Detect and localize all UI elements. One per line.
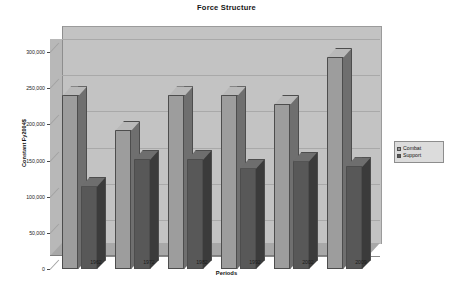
- bar-combat-2009[interactable]: [327, 57, 343, 269]
- bar-support-2009[interactable]: [346, 166, 362, 269]
- bar-front-face: [327, 57, 343, 269]
- y-axis-tick-label: 250,000: [26, 85, 45, 91]
- x-axis-tick-label: 1962: [76, 259, 116, 265]
- y-axis-title: Constant Fy2004$: [21, 83, 27, 203]
- y-axis-tick: [47, 233, 50, 234]
- bar-support-1992[interactable]: [240, 168, 256, 269]
- x-axis-tick-label: 2009: [341, 259, 381, 265]
- bar-front-face: [187, 159, 203, 269]
- bar-combat-1982[interactable]: [168, 95, 184, 269]
- x-axis-title: Periods: [0, 270, 453, 276]
- bar-support-2002[interactable]: [293, 161, 309, 270]
- y-axis-tick-label: 150,000: [26, 158, 45, 164]
- legend-swatch-combat-icon: [397, 147, 401, 151]
- y-axis-tick: [47, 197, 50, 198]
- bar-combat-1962[interactable]: [62, 95, 78, 269]
- bar-combat-1992[interactable]: [221, 95, 237, 269]
- bar-side-face: [150, 150, 159, 269]
- bar-side-face: [203, 150, 212, 269]
- x-axis-tick-label: 1992: [235, 259, 275, 265]
- bar-combat-2002[interactable]: [274, 104, 290, 269]
- bar-support-1972[interactable]: [134, 159, 150, 269]
- bar-support-1982[interactable]: [187, 159, 203, 269]
- y-axis-tick: [47, 161, 50, 162]
- x-axis-tick-label: 1972: [129, 259, 169, 265]
- bar-front-face: [221, 95, 237, 269]
- bar-front-face: [346, 166, 362, 269]
- y-axis-tick-label: 300,000: [26, 49, 45, 55]
- legend[interactable]: Combat Support: [394, 141, 444, 163]
- legend-swatch-support-icon: [397, 154, 401, 158]
- y-axis-tick-label: 50,000: [29, 230, 45, 236]
- bar-front-face: [293, 161, 309, 270]
- legend-label-support: Support: [403, 152, 421, 159]
- bar-front-face: [274, 104, 290, 269]
- bar-side-face: [256, 159, 265, 269]
- legend-item-support[interactable]: Support: [397, 152, 440, 159]
- gridline-depth: [50, 260, 60, 270]
- bar-front-face: [62, 95, 78, 269]
- bar-side-face: [362, 157, 371, 269]
- gridline: [62, 39, 380, 40]
- y-axis-tick-label: 200,000: [26, 121, 45, 127]
- bar-side-face: [309, 152, 318, 270]
- x-axis-tick-label: 2002: [288, 259, 328, 265]
- y-axis-tick: [47, 124, 50, 125]
- y-axis-tick: [47, 88, 50, 89]
- force-structure-chart: Force Structure 050,000100,000150,000200…: [0, 0, 453, 284]
- bar-front-face: [81, 186, 97, 269]
- bar-side-face: [97, 177, 106, 269]
- plot-area: 050,000100,000150,000200,000250,000300,0…: [0, 0, 453, 284]
- bar-combat-1972[interactable]: [115, 130, 131, 269]
- legend-label-combat: Combat: [403, 145, 421, 152]
- bar-front-face: [240, 168, 256, 269]
- bar-front-face: [134, 159, 150, 269]
- x-axis-tick-label: 1982: [182, 259, 222, 265]
- plot-left-wall: [50, 39, 62, 256]
- bar-support-1962[interactable]: [81, 186, 97, 269]
- y-axis-tick: [47, 52, 50, 53]
- y-axis-tick-label: 100,000: [26, 194, 45, 200]
- bar-front-face: [115, 130, 131, 269]
- bar-front-face: [168, 95, 184, 269]
- legend-item-combat[interactable]: Combat: [397, 145, 440, 152]
